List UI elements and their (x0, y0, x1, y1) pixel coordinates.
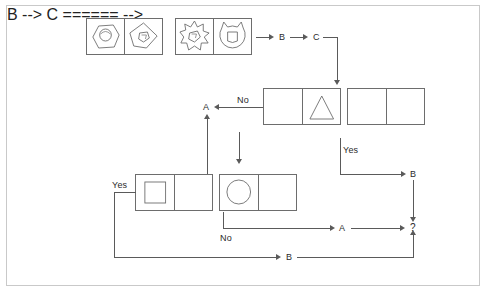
diagram-canvas: B --> C ====== --> B C No A (0, 0, 488, 293)
arrowhead-to-c-top (303, 34, 308, 40)
line-yes-left-stub (114, 192, 136, 193)
line-b-bottom-up-to-question (413, 234, 414, 258)
label-c-top: C (313, 33, 320, 42)
cell-empty-right (386, 89, 425, 124)
arrowhead-down-to-pair-6 (236, 159, 242, 164)
cell-starburst-with-pentagon (176, 19, 213, 54)
panel-pair-4 (347, 88, 425, 125)
arrow-line-b-to-c (290, 37, 304, 38)
cell-empty-right (174, 175, 213, 210)
label-a-bottom: A (339, 224, 345, 233)
square-icon (136, 175, 174, 210)
line-up-to-a (207, 118, 208, 178)
label-question: ? (410, 223, 416, 232)
circle-icon (220, 175, 258, 210)
line-b-bottom-right (297, 257, 413, 258)
label-a-mid: A (203, 103, 209, 112)
label-b-right: B (410, 170, 416, 179)
panel-pair-1 (86, 18, 163, 55)
arrowhead-to-b-top (269, 34, 274, 40)
line-yes-left-down (114, 192, 115, 258)
line-no-bottom-to-a (223, 228, 331, 229)
arrowhead-left-to-a (214, 104, 219, 110)
line-b-right-down-to-question (413, 180, 414, 218)
arrowhead-right-to-b-bottom (276, 254, 281, 260)
line-no-bottom-down (223, 212, 224, 229)
line-yes-right-to-b (340, 174, 402, 175)
arrow-line-to-b-top (256, 37, 270, 38)
panel-pair-5 (135, 174, 213, 211)
horned-circle-with-rounded-square-icon (214, 19, 251, 54)
cell-horned-circle-with-rounded-square (213, 19, 251, 54)
line-no-to-a (219, 107, 263, 108)
cell-square (136, 175, 174, 210)
label-b-bottom: B (286, 253, 292, 262)
diagram-frame: B --> C ====== --> B C No A (6, 5, 480, 286)
line-c-right (323, 37, 338, 38)
cell-empty-left (264, 89, 302, 124)
arrowhead-down-to-pair-3 (334, 80, 340, 85)
starburst-with-pentagon-icon (176, 19, 213, 54)
label-yes-left: Yes (112, 181, 127, 190)
line-bottom-rail-to-b (114, 257, 277, 258)
label-no-bottom: No (220, 234, 232, 243)
triangle-icon (303, 89, 341, 124)
line-c-down (337, 37, 338, 81)
hexagon-with-circle-icon (87, 19, 124, 54)
line-from-pair3-down (239, 132, 240, 160)
label-b-top: B (279, 33, 285, 42)
arrowhead-right-to-a-bottom (330, 225, 335, 231)
panel-pair-2 (175, 18, 252, 55)
panel-pair-6 (219, 174, 297, 211)
cell-empty-left (348, 89, 386, 124)
cell-triangle (302, 89, 341, 124)
cell-hexagon-with-circle (87, 19, 124, 54)
cell-empty-right (258, 175, 297, 210)
cell-blob-with-pentagon (124, 19, 162, 54)
panel-pair-3 (263, 88, 341, 125)
arrowhead-up-to-a (204, 114, 210, 119)
arrowhead-right-to-b (401, 171, 406, 177)
label-no-mid: No (237, 96, 249, 105)
arrowhead-right-to-question (400, 225, 405, 231)
line-a-bottom-to-question (351, 228, 401, 229)
cell-circle (220, 175, 258, 210)
label-yes-right: Yes (343, 146, 358, 155)
line-yes-down-right (340, 138, 341, 175)
blob-with-pentagon-icon (125, 19, 162, 54)
